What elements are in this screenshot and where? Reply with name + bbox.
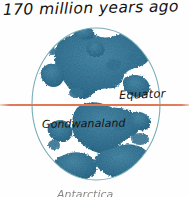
page-title: 170 million years ago (3, 0, 179, 19)
equator-label: Equator (119, 86, 166, 102)
gondwanaland-label: Gondwanaland (42, 117, 126, 131)
equator-line (0, 104, 189, 106)
bottom-caption-clipped: Antarctica (57, 188, 113, 197)
paleogeographic-globe-figure: 170 million years ago (0, 0, 189, 197)
